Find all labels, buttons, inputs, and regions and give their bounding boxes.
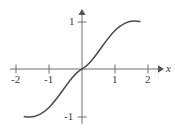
x-tick-label-neg2: -2 — [11, 74, 20, 85]
x-tick-label-pos2: 2 — [145, 74, 151, 85]
plot-area — [0, 0, 175, 134]
y-tick-label-pos1: 1 — [69, 16, 75, 27]
x-axis-arrow-icon — [158, 65, 164, 73]
x-tick-label-neg1: -1 — [44, 74, 53, 85]
x-tick-label-pos1: 1 — [112, 74, 118, 85]
y-axis-arrow-icon — [78, 9, 85, 15]
x-axis-label: x — [166, 63, 171, 74]
y-tick-label-neg1: -1 — [64, 111, 73, 122]
math-figure: -2 -1 1 2 1 -1 x — [0, 0, 175, 134]
